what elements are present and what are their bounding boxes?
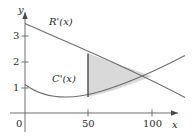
x-axis-arrowhead [171, 110, 178, 116]
origin-label: 0 [16, 119, 22, 129]
figure-graph-marginal-revenue-cost: y x 0 3 2 1 50 100 R'(x) C'(x) [0, 0, 192, 139]
y-tick-label-3: 3 [13, 31, 19, 41]
plot-svg [0, 0, 192, 139]
y-axis-label: y [18, 5, 24, 15]
marginal-revenue-curve-label: R'(x) [49, 17, 73, 27]
y-tick-label-1: 1 [13, 83, 19, 93]
x-tick-label-100: 100 [143, 119, 162, 129]
shaded-region-between-curves [88, 54, 152, 97]
x-tick-label-50: 50 [82, 119, 95, 129]
y-tick-label-2: 2 [13, 57, 19, 67]
x-axis-label: x [172, 120, 178, 130]
marginal-cost-curve-label: C'(x) [52, 74, 76, 84]
